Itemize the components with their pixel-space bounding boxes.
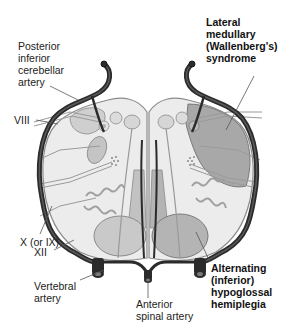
label-lateral-medullary-syndrome: Lateral medullary (Wallenberg's) syndrom… bbox=[206, 16, 278, 64]
label-vertebral-artery: Vertebral artery bbox=[34, 280, 76, 304]
anterior-spinal-stump bbox=[144, 270, 152, 283]
leader-pica bbox=[50, 86, 78, 100]
left-vertebral-stump bbox=[92, 258, 104, 278]
right-vertebral-stump bbox=[194, 258, 206, 278]
left-hypoglossal-nucleus bbox=[124, 115, 140, 129]
label-xii: XII bbox=[34, 246, 47, 258]
label-anterior-spinal-artery: Anterior spinal artery bbox=[136, 298, 193, 322]
right-hypoglossal-nucleus bbox=[158, 115, 174, 129]
leader-lateral-medullary bbox=[226, 76, 254, 130]
right-dorsal-vagal-nucleus bbox=[176, 112, 188, 124]
medulla-diagram: Posterior inferior cerebellar artery VII… bbox=[0, 0, 295, 336]
left-dorsal-vagal-nucleus bbox=[110, 112, 122, 124]
right-pica-cut-end bbox=[189, 61, 195, 67]
left-pica-cut-end bbox=[101, 61, 107, 67]
label-viii: VIII bbox=[14, 114, 30, 126]
label-alternating-hypoglossal-hemiplegia: Alternating (inferior) hypoglossal hemip… bbox=[211, 262, 272, 310]
label-pica: Posterior inferior cerebellar artery bbox=[18, 40, 64, 88]
